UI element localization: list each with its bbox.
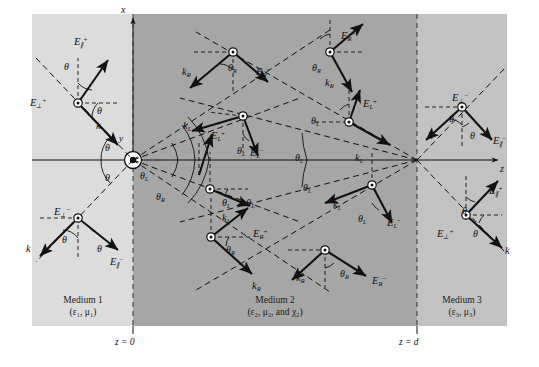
field-subscript: R (187, 71, 191, 78)
angle-symbol: θ (462, 205, 467, 216)
angle-symbol: θ (105, 142, 110, 153)
figure-canvas: x z y z = 0 z = d Medium 1 (ε₁, μ₁) Medi… (0, 0, 539, 367)
x-axis-label: x (121, 4, 125, 15)
kR-m2-topright: kR (325, 77, 334, 89)
theta-m3-lower-a: θ (462, 205, 467, 216)
E-perp-minus-m1: E⊥− (54, 206, 70, 219)
boundary-label-zd: z = d (399, 337, 419, 347)
boundary-ticks (133, 326, 417, 334)
thetaL-lbl-m2-mid: θL (246, 197, 255, 209)
medium2-label: Medium 2 (ε₂, μ₂, and χ₂) (212, 294, 338, 318)
medium1-name: Medium 1 (40, 294, 126, 306)
angle-symbol: θ (97, 243, 102, 254)
angle-symbol: θ (473, 228, 478, 239)
medium2-params: (ε₂, μ₂, and χ₂) (212, 306, 338, 318)
angle-subscript: L (242, 150, 245, 157)
field-superscript: − (260, 147, 264, 154)
field-base-symbol: k (505, 245, 510, 256)
medium1-params: (ε₁, μ₁) (40, 306, 126, 318)
k-ref-m1: k (26, 243, 31, 254)
medium1-region (32, 14, 133, 326)
ER-minus-m2-bottom: ER− (372, 275, 386, 287)
EL-minus-m2-center: EL− (387, 217, 401, 229)
EL-minus-m2-upper: EL− (250, 147, 264, 159)
field-subscript: R (257, 285, 261, 292)
angle-symbol: θ (62, 234, 67, 245)
thetaL-m2-mid: θL (303, 182, 311, 194)
field-superscript: + (83, 36, 87, 43)
E-par-plus-m3: E∥+ (489, 185, 502, 198)
theta-m3-lower-b: θ (473, 228, 478, 239)
E-par-minus-m1: E∥− (110, 256, 123, 269)
angle-subscript: L (227, 202, 230, 209)
field-subscript: L (360, 157, 364, 164)
thetaR-m2-topright: θR (312, 62, 321, 74)
theta-m1-inc-lower: θ (97, 105, 102, 116)
EL-plus-m2-topright: EL+ (363, 98, 377, 110)
thetaR-origin: θR (156, 191, 165, 203)
kR-m2-lowleft: kR (252, 280, 261, 292)
medium3-name: Medium 3 (420, 294, 504, 306)
theta-origin-upper: θ (105, 142, 110, 153)
field-superscript: + (263, 228, 267, 235)
thetaR-m2-topleft: θR (228, 62, 237, 74)
thetaR-m2-lowerleft: θR (226, 244, 235, 256)
theta-m1-ref-lower: θ (97, 243, 102, 254)
field-subscript: L (188, 125, 192, 132)
kL-m2-center: kL (333, 199, 341, 211)
E-perp-plus-m3: E⊥+ (437, 228, 453, 241)
k-m3-lower: k (505, 245, 510, 256)
field-subscript: L (227, 217, 231, 224)
kL-m2-mid: kL (222, 212, 230, 224)
theta-m3-upper-a: θ (449, 113, 454, 124)
field-superscript: + (373, 98, 377, 105)
field-superscript: + (449, 228, 453, 235)
ER-minus-m2-topleft: ER− (256, 66, 270, 78)
field-subscript: R (330, 82, 334, 89)
field-superscript: − (464, 92, 468, 99)
angle-subscript: R (317, 67, 321, 74)
medium2-name: Medium 2 (212, 294, 338, 306)
E-par-plus-m1: E∥+ (74, 36, 87, 49)
angle-subscript: L (145, 175, 148, 182)
ER-plus-m2-topright: ER+ (341, 30, 355, 42)
field-superscript: − (119, 256, 123, 263)
thetaL-origin: θL (140, 170, 148, 182)
field-superscript: + (351, 30, 355, 37)
angle-subscript: L (300, 157, 303, 164)
field-superscript: − (266, 66, 270, 73)
EL-plus-m2-upper: EL+ (211, 130, 225, 142)
field-superscript: − (66, 206, 70, 213)
angle-subscript: R (233, 67, 237, 74)
angle-symbol: θ (105, 172, 110, 183)
z-axis-label: z (500, 163, 504, 174)
angle-subscript: L (363, 218, 366, 225)
kL-m2-topright: kL (355, 152, 363, 164)
medium1-label: Medium 1 (ε₁, μ₁) (40, 294, 126, 318)
media-backgrounds (32, 14, 507, 326)
boundary-label-z0: z = 0 (115, 337, 135, 347)
angle-symbol: θ (449, 113, 454, 124)
thetaL-m2-node: θL (358, 213, 366, 225)
field-superscript: − (502, 135, 506, 142)
ER-plus-m2-low: ER+ (253, 228, 267, 240)
field-subscript: R (301, 277, 305, 284)
field-subscript: L (251, 202, 255, 209)
field-subscript: L (338, 204, 342, 211)
field-superscript: − (397, 217, 401, 224)
thetaL-m2-topright: θL (311, 115, 319, 127)
theta-m3-upper-b: θ (470, 130, 475, 141)
thetaR-m2-bottom: θR (340, 268, 349, 280)
y-axis-label: y (119, 133, 123, 143)
field-base-symbol: k (428, 130, 433, 141)
theta-origin-lower: θ (105, 172, 110, 183)
angle-subscript: R (345, 273, 349, 280)
kR-m2-topleft: kR (182, 66, 191, 78)
field-base-symbol: k (26, 243, 31, 254)
E-perp-minus-m3: E⊥− (452, 92, 468, 105)
angle-subscript: L (308, 187, 311, 194)
medium3-label: Medium 3 (ε₃, μ₃) (420, 294, 504, 318)
angle-subscript: L (316, 120, 319, 127)
field-superscript: − (382, 275, 386, 282)
field-base-symbol: k (96, 120, 101, 131)
